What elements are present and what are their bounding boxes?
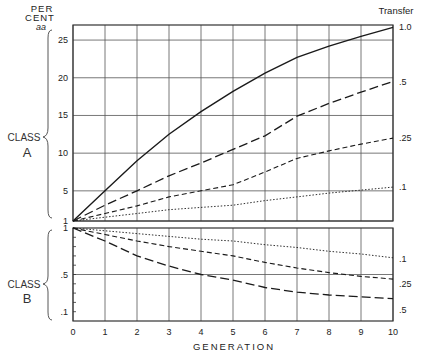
class-b-ytick-label: .1 <box>60 307 68 317</box>
class-a-ytick-label: 15 <box>58 110 68 120</box>
tick-labels: 15101520251.5.1012345678910 <box>58 35 398 337</box>
x-tick-label: 1 <box>102 327 107 337</box>
class-a-ytick-label: 5 <box>63 186 68 196</box>
class-b-letter: B <box>23 291 32 306</box>
class-a-letter: A <box>23 145 32 160</box>
x-tick-label: 7 <box>294 327 299 337</box>
class-b-legend-p5: .5 <box>399 305 407 315</box>
class-a-legend-p5: .5 <box>399 77 407 87</box>
legend-labels: 1.0.5.25.1.1.25.5 <box>399 22 412 314</box>
class-b-ytick-label: .5 <box>60 270 68 280</box>
class-b-brace <box>43 230 52 320</box>
class-a-ytick-label: 10 <box>58 148 68 158</box>
x-tick-label: 8 <box>326 327 331 337</box>
chart: 15101520251.5.1012345678910 1.0.5.25.1.1… <box>0 0 424 355</box>
class-b-ytick-label: 1 <box>63 223 68 233</box>
x-tick-label: 10 <box>388 327 398 337</box>
class-a-legend-p1: .1 <box>399 182 407 192</box>
x-tick-label: 3 <box>166 327 171 337</box>
class-a-label: CLASS <box>8 132 41 143</box>
y-label-genotype: aa <box>36 22 46 32</box>
x-tick-label: 2 <box>134 327 139 337</box>
class-a-brace <box>43 30 52 218</box>
x-tick-label: 5 <box>230 327 235 337</box>
class-a-legend-1p0: 1.0 <box>399 22 412 32</box>
class-b-legend-p25: .25 <box>399 279 412 289</box>
x-tick-label: 6 <box>262 327 267 337</box>
class-a-grid <box>73 25 393 221</box>
x-axis-label: GENERATION <box>193 341 275 352</box>
class-b-label: CLASS <box>8 279 41 290</box>
class-a-legend-p25: .25 <box>399 133 412 143</box>
class-b-legend-p1: .1 <box>399 254 407 264</box>
class-a-ytick-label: 20 <box>58 73 68 83</box>
x-tick-label: 4 <box>198 327 203 337</box>
x-tick-label: 9 <box>358 327 363 337</box>
x-tick-label: 0 <box>70 327 75 337</box>
legend-title: Transfer <box>378 5 413 16</box>
class-a-ytick-label: 25 <box>58 35 68 45</box>
